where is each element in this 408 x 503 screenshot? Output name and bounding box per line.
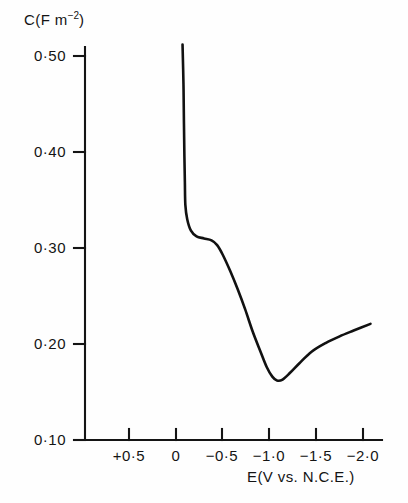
y-tick-label-030: 0·30 bbox=[10, 239, 66, 256]
y-axis-title-base: C(F m bbox=[24, 11, 68, 28]
axes-group bbox=[74, 47, 382, 440]
x-axis-ticks bbox=[129, 429, 363, 440]
y-tick-label-010: 0·10 bbox=[10, 431, 66, 448]
y-tick-label-040: 0·40 bbox=[10, 143, 66, 160]
capacitance-figure: C(F m−2) E(V vs. N.C.E.) 0·50 0·40 0·30 … bbox=[0, 0, 408, 503]
y-tick-label-050: 0·50 bbox=[10, 47, 66, 64]
y-tick-label-020: 0·20 bbox=[10, 335, 66, 352]
x-tick-label-minus20: −2·0 bbox=[335, 447, 391, 464]
y-axis-title-exponent: −2 bbox=[68, 10, 79, 21]
axis-lines bbox=[85, 47, 382, 440]
y-axis-title-close: ) bbox=[79, 11, 84, 28]
y-axis-ticks bbox=[74, 56, 85, 440]
y-axis-title: C(F m−2) bbox=[24, 10, 84, 28]
x-axis-title: E(V vs. N.C.E.) bbox=[247, 468, 355, 485]
capacitance-curve bbox=[183, 44, 371, 380]
